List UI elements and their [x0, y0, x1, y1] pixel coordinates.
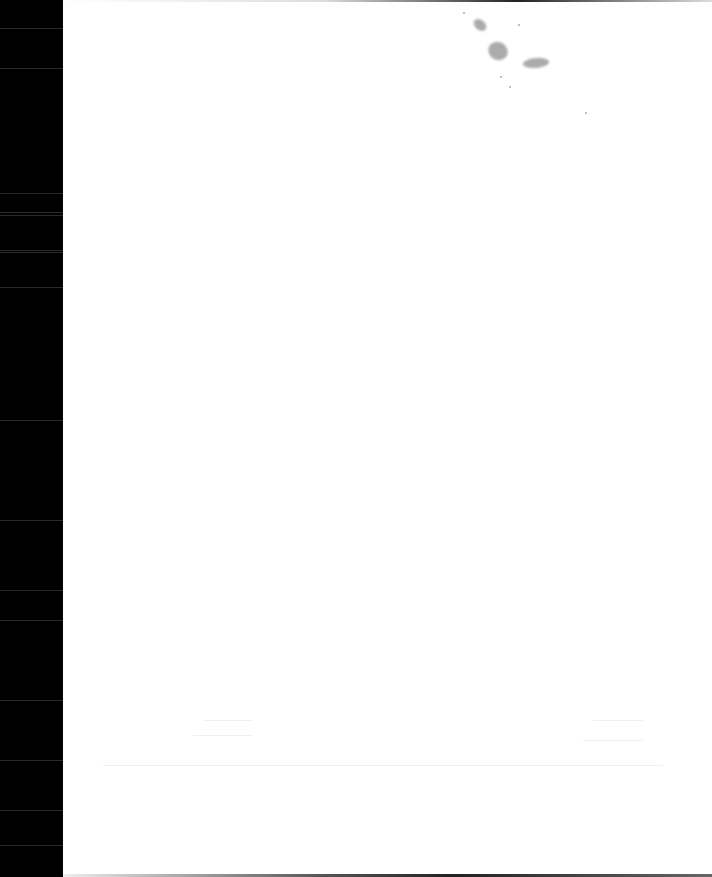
bleed-through-line	[103, 765, 663, 766]
blank-page	[63, 0, 712, 877]
ink-speck	[509, 86, 511, 88]
ink-speck	[518, 24, 520, 26]
bleed-through-line	[593, 720, 643, 721]
ink-speck	[585, 112, 587, 114]
ink-blot	[471, 17, 488, 34]
ink-speck	[463, 12, 465, 14]
bleed-through-line	[583, 740, 643, 741]
scanner-edge	[0, 0, 63, 877]
ink-blot	[485, 38, 511, 64]
bleed-through-line	[193, 735, 253, 736]
ink-blot	[523, 57, 550, 69]
bleed-through-line	[203, 720, 253, 721]
ink-speck	[500, 76, 502, 78]
